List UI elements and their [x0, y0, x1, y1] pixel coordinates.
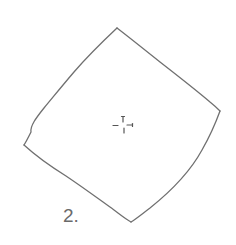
edge-bottom-right — [131, 111, 220, 222]
sketch-canvas — [0, 0, 236, 245]
edge-top-left — [24, 28, 117, 145]
crosshair-icon — [113, 117, 133, 134]
rotated-square-shape — [24, 28, 220, 222]
figure-label: 2. — [63, 206, 79, 225]
edge-top-right — [117, 28, 220, 111]
